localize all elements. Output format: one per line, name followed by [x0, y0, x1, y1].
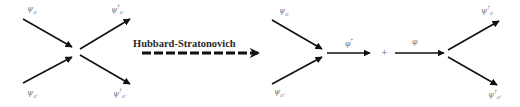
rl-in-top-label: ψσ	[279, 7, 289, 17]
plus-sign: +	[381, 48, 388, 57]
phi-star-label: φ*	[345, 38, 353, 48]
left-in-bottom-label: ψσ'	[27, 89, 38, 99]
rr-out-top-line	[448, 21, 499, 50]
left-out-bottom-label: ψ†σ'	[113, 88, 127, 99]
left-out-top-line	[80, 19, 130, 49]
left-out-bottom-line	[80, 55, 130, 84]
left-in-top-label: ψσ	[27, 5, 37, 15]
hubbard-stratonovich-diagram	[0, 0, 520, 107]
rl-in-top-line	[272, 20, 322, 49]
rr-out-bottom-label: ψ†σ'	[488, 89, 502, 100]
left-in-bottom-line	[23, 57, 72, 83]
rr-out-bottom-line	[448, 57, 497, 85]
left-in-top-line	[23, 19, 72, 47]
phi-label: φ	[412, 38, 418, 46]
rr-out-top-label: ψ†σ	[481, 5, 493, 16]
transform-label: Hubbard-Stratonovich	[133, 38, 236, 49]
rl-in-bottom-line	[272, 57, 322, 84]
left-out-top-label: ψ†σ	[111, 4, 123, 15]
rl-in-bottom-label: ψσ'	[274, 88, 285, 98]
